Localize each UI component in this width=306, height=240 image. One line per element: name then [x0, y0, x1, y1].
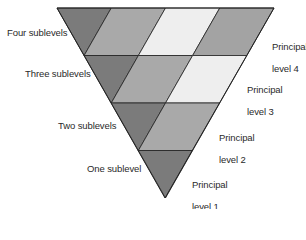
label-four-sublevels: Four sublevels — [7, 27, 67, 38]
label-principal-level-1: Principal level 1 — [192, 168, 228, 209]
label-line2: level 2 — [219, 154, 246, 165]
label-three-sublevels: Three sublevels — [25, 68, 91, 79]
label-principal-level-4: Principal level 4 — [272, 30, 306, 74]
label-two-sublevels: Two sublevels — [58, 120, 116, 131]
label-line1: Principal — [247, 84, 283, 95]
label-line1: Principal — [219, 132, 255, 143]
label-line1: Principal — [192, 179, 228, 190]
label-principal-level-3: Principal level 3 — [247, 73, 283, 117]
label-line2: level 1 — [192, 201, 219, 209]
label-principal-level-2: Principal level 2 — [219, 121, 255, 165]
label-line2: level 3 — [247, 106, 274, 117]
level-1-sublevel-1-cell — [138, 151, 192, 199]
label-line1: Principal — [272, 41, 306, 52]
label-one-sublevel: One sublevel — [87, 163, 141, 174]
